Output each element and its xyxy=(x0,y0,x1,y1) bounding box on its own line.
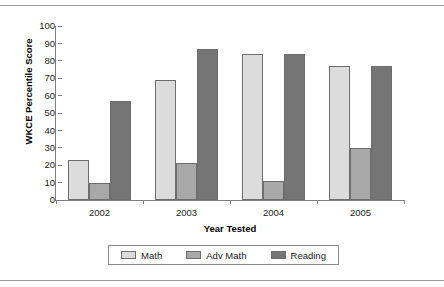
x-tick-label-2003: 2003 xyxy=(143,207,230,218)
bar-reading-2004 xyxy=(284,54,305,200)
legend-label: Reading xyxy=(291,250,326,261)
legend-label: Adv Math xyxy=(206,250,246,261)
y-axis-title: WKCE Percentile Score xyxy=(23,17,34,167)
bar-chart-figure: 0102030405060708090100 WKCE Percentile S… xyxy=(0,8,444,276)
bar-adv-math-2002 xyxy=(89,183,110,200)
bar-adv-math-2004 xyxy=(263,181,284,200)
legend-swatch-icon xyxy=(271,251,286,259)
legend-label: Math xyxy=(141,250,162,261)
bar-math-2002 xyxy=(68,160,89,200)
legend-swatch-icon xyxy=(121,251,136,259)
bar-group-2003 xyxy=(143,26,230,200)
legend-item-math: Math xyxy=(121,250,162,261)
bar-adv-math-2003 xyxy=(176,163,197,200)
bar-math-2003 xyxy=(155,80,176,200)
legend-item-reading: Reading xyxy=(271,250,326,261)
bottom-divider xyxy=(0,280,444,281)
legend-swatch-icon xyxy=(186,251,201,259)
bar-adv-math-2005 xyxy=(350,148,371,200)
chart-legend: MathAdv MathReading xyxy=(108,245,339,265)
bar-group-2004 xyxy=(230,26,317,200)
bar-groups xyxy=(56,26,404,200)
x-tick-label-2004: 2004 xyxy=(230,207,317,218)
bar-math-2004 xyxy=(242,54,263,200)
x-tick-mark xyxy=(317,200,318,204)
bar-reading-2002 xyxy=(110,101,131,200)
bar-reading-2005 xyxy=(371,66,392,200)
x-tick-mark xyxy=(56,200,57,204)
x-tick-label-2002: 2002 xyxy=(56,207,143,218)
chart-page: 0102030405060708090100 WKCE Percentile S… xyxy=(0,0,444,287)
legend-item-adv-math: Adv Math xyxy=(186,250,246,261)
bar-group-2002 xyxy=(56,26,143,200)
top-divider xyxy=(0,5,444,6)
bar-math-2005 xyxy=(329,66,350,200)
x-tick-label-2005: 2005 xyxy=(317,207,404,218)
bar-reading-2003 xyxy=(197,49,218,200)
bar-group-2005 xyxy=(317,26,404,200)
x-tick-mark xyxy=(230,200,231,204)
x-axis-tick-labels: 2002200320042005 xyxy=(56,207,404,218)
x-axis-title: Year Tested xyxy=(56,223,404,234)
x-tick-mark xyxy=(143,200,144,204)
x-tick-mark xyxy=(404,200,405,204)
